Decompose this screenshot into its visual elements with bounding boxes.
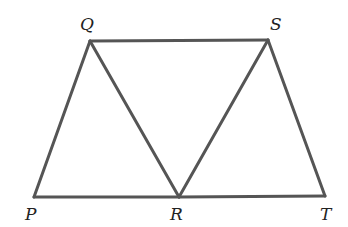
segment-RT <box>179 196 325 197</box>
segment-ST <box>268 40 325 196</box>
vertex-label-S: S <box>270 14 282 34</box>
diagram-svg: PQRST <box>0 0 348 227</box>
segment-QS <box>90 40 268 41</box>
segment-QR <box>90 41 179 197</box>
segment-RS <box>179 40 268 197</box>
vertex-label-Q: Q <box>80 14 94 34</box>
vertex-label-T: T <box>320 204 333 224</box>
vertex-label-R: R <box>169 204 183 224</box>
segment-PQ <box>34 41 90 197</box>
vertex-label-P: P <box>24 204 37 224</box>
geometry-diagram: PQRST <box>0 0 348 227</box>
